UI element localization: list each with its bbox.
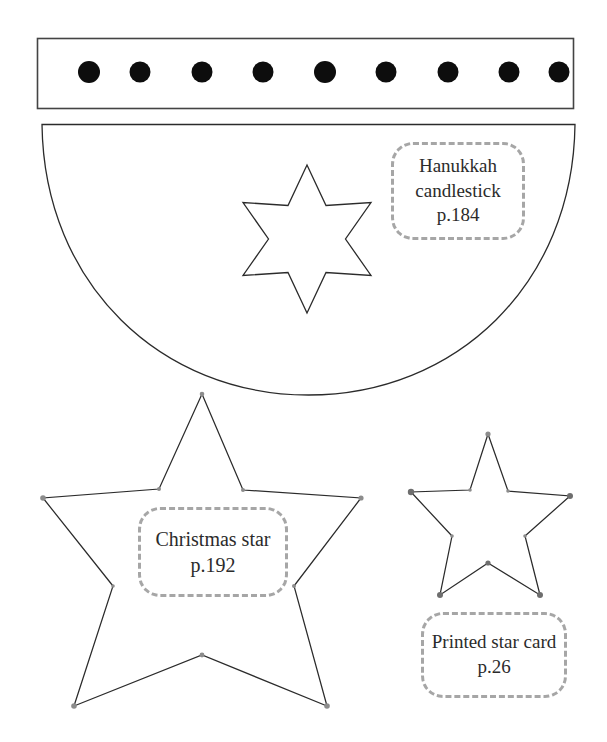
star-vertex-mark [292,584,296,588]
label-printed-star-card: Printed star card p.26 [421,612,567,698]
star-vertex-mark [111,584,115,588]
star-vertex-mark [523,534,527,538]
star-vertex-mark [485,431,490,436]
printed-star-shape [408,431,573,598]
template-sheet: Hanukkah candlestick p.184 Christmas sta… [0,0,607,742]
label-christmas-star: Christmas star p.192 [138,507,288,597]
star-vertex-mark [40,495,46,501]
strip-hole [438,62,459,83]
label-line-2: candlestick [415,179,500,204]
label-line-1: Printed star card [432,630,557,655]
star-vertex-mark [71,703,77,709]
star-vertex-mark [437,592,443,598]
strip-outline [38,39,574,109]
star-vertex-mark [468,488,472,492]
star-vertex-mark [157,487,161,491]
strip-hole [253,62,274,83]
star-vertex-mark [537,592,543,598]
candle-holder-strip [38,39,574,109]
strip-hole [78,61,100,83]
label-line-1: Christmas star [156,526,271,552]
label-line-1: Hanukkah [419,154,497,179]
star-vertex-mark [567,493,573,499]
label-line-2: p.192 [191,552,236,578]
star-vertex-mark [450,534,454,538]
star-vertex-mark [485,560,490,565]
label-line-3: p.184 [437,203,480,228]
strip-hole [499,62,520,83]
strip-hole [192,62,213,83]
strip-hole [376,62,397,83]
star-vertex-mark [358,495,363,500]
star-vertex-mark [408,489,414,495]
star-vertex-mark [200,653,205,658]
strip-hole [549,62,570,83]
strip-hole [130,62,151,83]
star-vertex-mark [200,392,205,397]
star-vertex-mark [324,703,330,709]
label-hanukkah-candlestick: Hanukkah candlestick p.184 [391,142,525,240]
star-vertex-mark [241,488,245,492]
printed-star-outline [411,434,570,595]
strip-hole [314,61,336,83]
star-vertex-mark [506,489,510,493]
label-line-2: p.26 [477,655,510,680]
